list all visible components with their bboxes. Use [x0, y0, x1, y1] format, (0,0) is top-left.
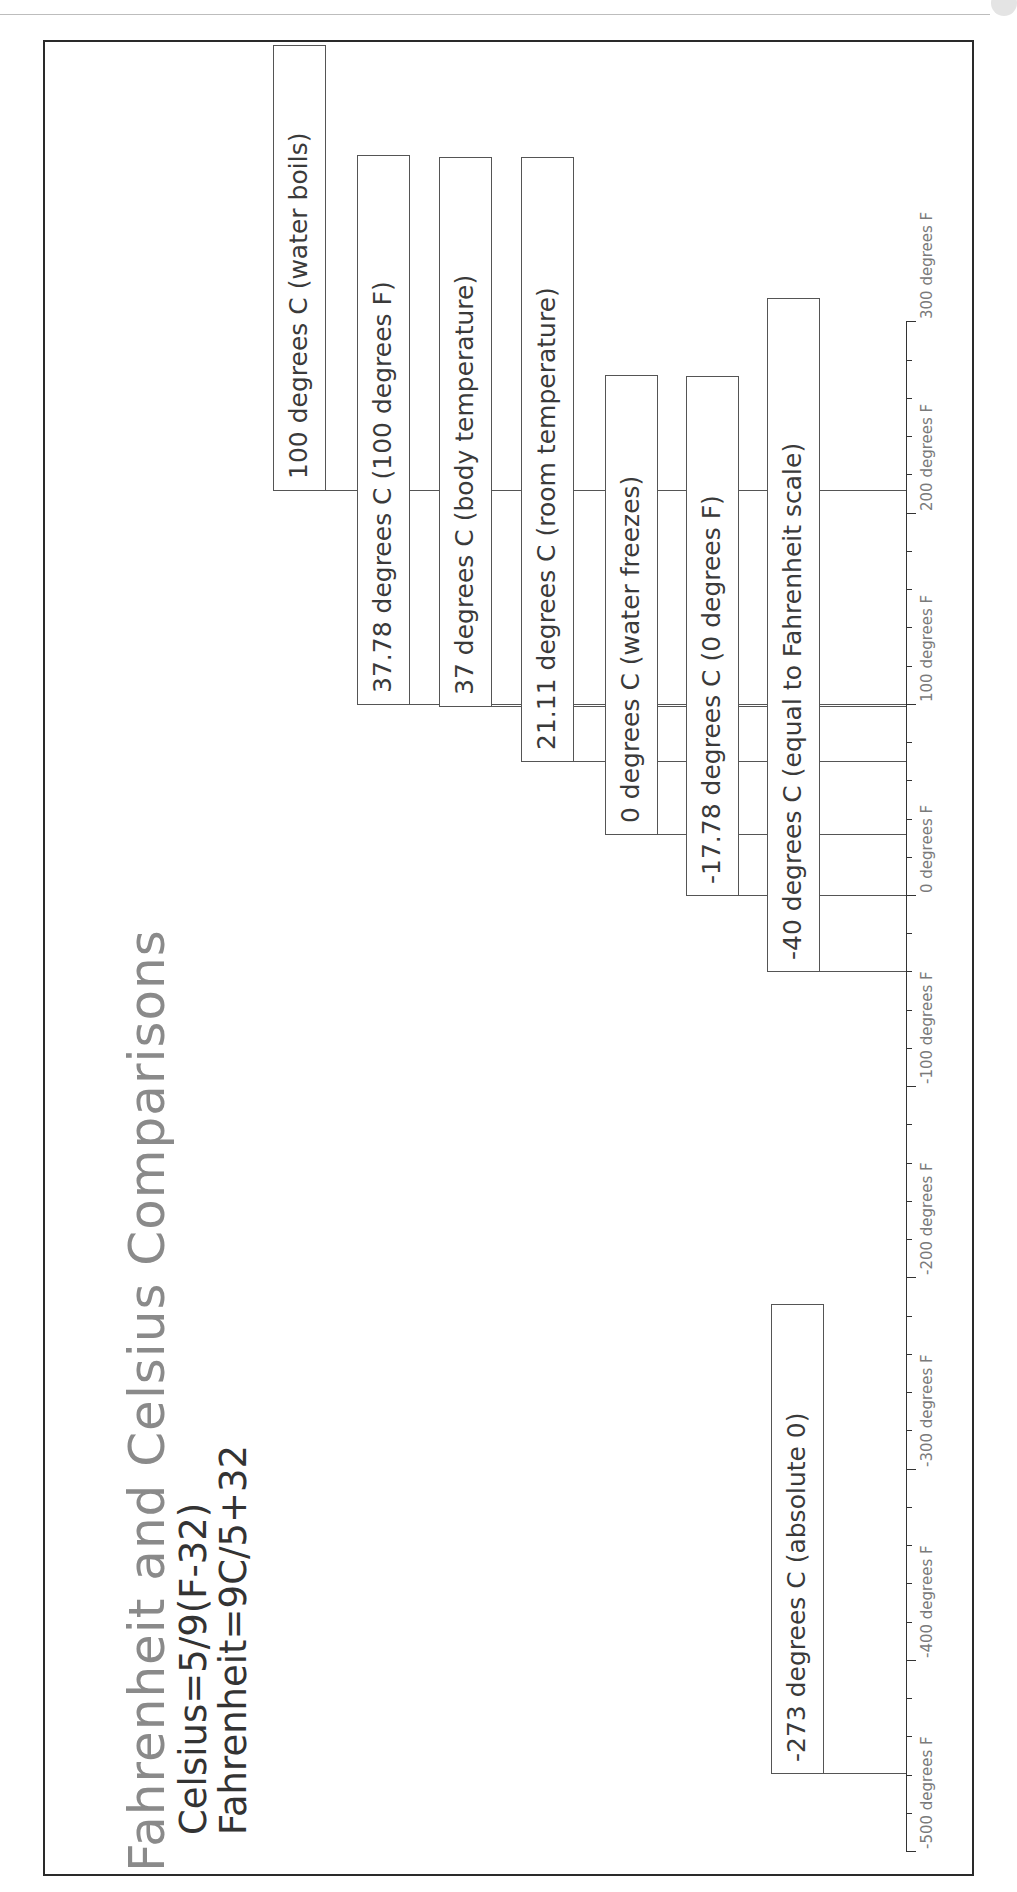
minor-tick [906, 360, 912, 361]
marker-label: -40 degrees C (equal to Fahrenheit scale… [778, 443, 807, 960]
minor-tick [906, 1775, 912, 1776]
marker-label: 37 degrees C (body temperature) [450, 275, 479, 695]
page-title: Fahrenheit and Celsius Comparisons [118, 929, 176, 1872]
major-tick [906, 1851, 916, 1852]
marker-label: -273 degrees C (absolute 0) [782, 1413, 811, 1763]
marker-label: 0 degrees C (water freezes) [616, 475, 645, 822]
minor-tick [906, 1507, 912, 1508]
axis-tick-label: 100 degrees F [918, 595, 936, 702]
minor-tick [906, 780, 912, 781]
axis-tick-label: -400 degrees F [918, 1545, 936, 1658]
marker-box: 21.11 degrees C (room temperature) [521, 157, 574, 762]
minor-tick [906, 589, 912, 590]
minor-tick [906, 971, 912, 972]
axis-tick-label: -300 degrees F [918, 1354, 936, 1467]
marker-label: 37.78 degrees C (100 degrees F) [368, 281, 397, 693]
major-tick [906, 1469, 916, 1470]
minor-tick [906, 474, 912, 475]
marker-box: 37 degrees C (body temperature) [439, 157, 492, 707]
marker-box: 100 degrees C (water boils) [273, 45, 326, 491]
minor-tick [906, 1354, 912, 1355]
minor-tick [906, 1201, 912, 1202]
minor-tick [906, 1048, 912, 1049]
minor-tick [906, 627, 912, 628]
major-tick [906, 321, 916, 322]
axis-tick-label: -500 degrees F [918, 1736, 936, 1849]
minor-tick [906, 1583, 912, 1584]
axis-tick-label: 200 degrees F [918, 403, 936, 510]
minor-tick [906, 1545, 912, 1546]
marker-label: 21.11 degrees C (room temperature) [532, 287, 561, 750]
axis-tick-label: -200 degrees F [918, 1163, 936, 1276]
minor-tick [906, 398, 912, 399]
minor-tick [906, 933, 912, 934]
major-tick [906, 513, 916, 514]
minor-tick [906, 1736, 912, 1737]
minor-tick [906, 742, 912, 743]
marker-box: 37.78 degrees C (100 degrees F) [357, 155, 410, 705]
major-tick [906, 1086, 916, 1087]
minor-tick [906, 1124, 912, 1125]
major-tick [906, 704, 916, 705]
celsius-formula: Celsius=5/9(F-32) [172, 1503, 215, 1835]
axis-tick-label: 0 degrees F [918, 805, 936, 893]
marker-box: -40 degrees C (equal to Fahrenheit scale… [767, 298, 820, 972]
minor-tick [906, 666, 912, 667]
marker-label: -17.78 degrees C (0 degrees F) [697, 495, 726, 884]
minor-tick [906, 857, 912, 858]
major-tick [906, 895, 916, 896]
major-tick [906, 1660, 916, 1661]
major-tick [906, 1277, 916, 1278]
minor-tick [906, 819, 912, 820]
fahrenheit-formula: Fahrenheit=9C/5+32 [212, 1445, 255, 1835]
page-corner [991, 0, 1017, 16]
minor-tick [906, 1239, 912, 1240]
minor-tick [906, 1622, 912, 1623]
minor-tick [906, 436, 912, 437]
marker-label: 100 degrees C (water boils) [284, 132, 313, 478]
minor-tick [906, 551, 912, 552]
minor-tick [906, 1316, 912, 1317]
minor-tick [906, 1392, 912, 1393]
minor-tick [906, 1813, 912, 1814]
minor-tick [906, 1163, 912, 1164]
axis-tick-label: 300 degrees F [918, 212, 936, 319]
minor-tick [906, 1430, 912, 1431]
axis-tick-label: -100 degrees F [918, 972, 936, 1085]
header-rule [0, 14, 990, 15]
marker-box: -17.78 degrees C (0 degrees F) [686, 376, 739, 896]
leader-line [439, 706, 906, 707]
minor-tick [906, 1698, 912, 1699]
marker-box: 0 degrees C (water freezes) [605, 375, 658, 835]
marker-box: -273 degrees C (absolute 0) [771, 1304, 824, 1774]
minor-tick [906, 1010, 912, 1011]
